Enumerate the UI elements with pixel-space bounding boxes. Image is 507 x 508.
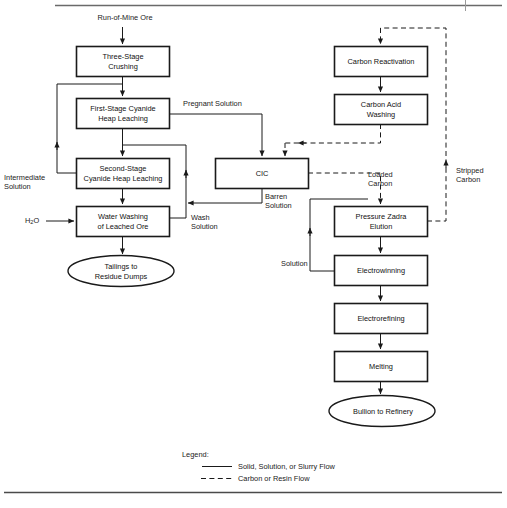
label-run-of-mine-ore: Run-of-Mine Ore (80, 13, 170, 22)
node-tailings-to-residue-dumps[interactable] (68, 256, 174, 287)
edge-barren-solution (188, 188, 262, 203)
node-three-stage-crushing[interactable] (77, 47, 170, 77)
label-wash-solution: WashSolution (191, 213, 218, 231)
edge-pregnant-solution (169, 114, 262, 156)
label-barren-solution: BarrenSolution (265, 192, 292, 210)
node-electrowinning[interactable] (335, 256, 428, 286)
label-stripped-carbon: StrippedCarbon (456, 166, 484, 184)
label-solution: Solution (281, 259, 308, 268)
legend-item-carbon-flow: Carbon or Resin Flow (238, 474, 309, 483)
label-loaded-carbon: LoadedCarbon (368, 170, 393, 188)
node-carbon-acid-washing[interactable] (335, 95, 428, 125)
node-water-washing-of-leached-ore[interactable] (77, 207, 170, 237)
legend-sample-lines (201, 467, 232, 479)
node-second-stage-cyanide-heap-leaching[interactable] (77, 159, 170, 189)
legend-item-solid-flow: Solid, Solution, or Slurry Flow (238, 462, 335, 471)
node-cic[interactable] (216, 159, 309, 189)
legend-title: Legend: (182, 450, 209, 459)
label-intermediate-solution: IntermediateSolution (4, 173, 45, 191)
flowsheet-nodes (68, 47, 435, 427)
node-carbon-reactivation[interactable] (335, 47, 428, 77)
flowsheet-svg (0, 0, 507, 508)
node-first-stage-cyanide-heap-leaching[interactable] (77, 99, 170, 129)
label-h2o: H2O (25, 216, 39, 227)
node-bullion-to-refinery[interactable] (329, 396, 435, 427)
label-pregnant-solution: Pregnant Solution (183, 99, 242, 108)
node-melting[interactable] (335, 352, 428, 382)
node-electrorefining[interactable] (335, 304, 428, 334)
node-pressure-zadra-elution[interactable] (335, 207, 428, 237)
flowsheet-canvas: Run-of-Mine Ore Three-StageCrushing Firs… (0, 0, 507, 508)
edge-reactivated-carbon-to-cic (285, 124, 381, 143)
